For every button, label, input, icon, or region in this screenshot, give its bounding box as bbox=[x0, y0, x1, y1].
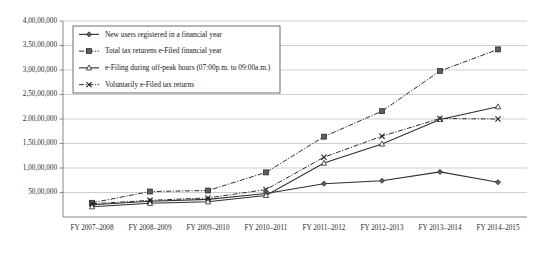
x-axis-tick-label: FY 2008–2009 bbox=[128, 224, 171, 232]
x-axis-tick-label: FY 2007–2008 bbox=[70, 224, 113, 232]
y-axis-tick-label: 1,00,00,000 bbox=[23, 164, 58, 172]
x-axis-tick-label: FY 2012–2013 bbox=[360, 224, 403, 232]
chart-legend: New users registered in a financial year… bbox=[73, 26, 280, 93]
marker-square bbox=[148, 189, 153, 194]
x-axis-tick-label: FY 2010–2011 bbox=[245, 224, 288, 232]
marker-diamond bbox=[379, 178, 384, 183]
marker-diamond bbox=[437, 169, 442, 174]
marker-diamond bbox=[495, 180, 500, 185]
marker-diamond bbox=[321, 181, 326, 186]
x-axis-labels: FY 2007–2008FY 2008–2009FY 2009–2010FY 2… bbox=[70, 224, 519, 232]
x-axis-tick-label: FY 2011–2012 bbox=[303, 224, 346, 232]
x-axis-tick-label: FY 2009–2010 bbox=[186, 224, 229, 232]
y-axis-tick-label: 50,00,000 bbox=[28, 188, 57, 196]
chart-container: 50,00,0001,00,00,0001,50,00,0002,00,00,0… bbox=[0, 0, 542, 260]
marker-x bbox=[379, 134, 384, 139]
marker-square bbox=[438, 68, 443, 73]
marker-x bbox=[321, 155, 326, 160]
marker-square bbox=[206, 188, 211, 193]
legend-label: Total tax returens e-Filed financial yea… bbox=[105, 46, 222, 55]
marker-triangle bbox=[495, 104, 500, 109]
y-axis-tick-label: 1,50,00,000 bbox=[23, 139, 58, 147]
y-axis-tick-label: 3,50,00,000 bbox=[23, 41, 58, 49]
marker-square bbox=[264, 170, 269, 175]
x-axis-tick-label: FY 2014–2015 bbox=[476, 224, 519, 232]
legend-label: Voluntarily e-Filed tax returns bbox=[105, 80, 194, 89]
y-axis-tick-label: 3,00,00,000 bbox=[23, 66, 58, 74]
x-axis-tick-label: FY 2013–2014 bbox=[418, 224, 461, 232]
y-axis-tick-label: 4,00,00,000 bbox=[23, 17, 58, 25]
marker-square bbox=[496, 47, 501, 52]
marker-square bbox=[380, 109, 385, 114]
marker-square bbox=[322, 134, 327, 139]
legend-label: New users registered in a financial year bbox=[105, 30, 223, 39]
line-chart: 50,00,0001,00,00,0001,50,00,0002,00,00,0… bbox=[0, 0, 542, 260]
y-axis-tick-label: 2,50,00,000 bbox=[23, 90, 58, 98]
marker-square bbox=[87, 49, 92, 54]
legend-label: e-Filing during off-peak hours (07:00p.m… bbox=[105, 63, 271, 72]
y-axis-tick-label: 2,00,00,000 bbox=[23, 115, 58, 123]
series-line bbox=[92, 119, 498, 204]
